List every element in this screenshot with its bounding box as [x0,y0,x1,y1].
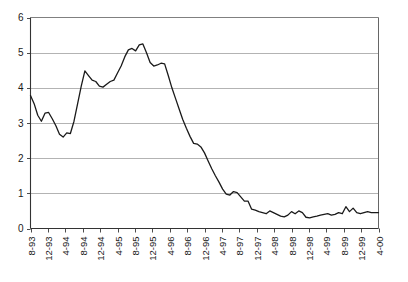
y-tick-label-2: 2 [18,153,24,164]
x-tick-label-20: 4-00 [374,237,385,256]
x-tick-label-18: 8-99 [339,237,350,256]
y-tick-label-3: 3 [18,118,24,129]
x-tick-label-12: 8-97 [234,237,245,256]
x-tick-label-7: 12-95 [147,237,158,261]
chart-canvas: 0123456 8-9312-934-948-9412-944-958-9512… [0,0,408,282]
y-tick-label-4: 4 [18,82,24,93]
x-tick-label-8: 4-96 [165,237,176,256]
x-tick-label-13: 12-97 [252,237,263,261]
y-tick-label-6: 6 [18,12,24,23]
line-chart: 0123456 8-9312-934-948-9412-944-958-9512… [0,0,408,282]
x-tick-label-17: 4-99 [321,237,332,256]
x-tick-label-19: 12-99 [356,237,367,261]
x-tick-label-4: 12-94 [95,237,106,261]
x-tick-label-5: 4-95 [113,237,124,256]
x-tick-label-10: 12-96 [200,237,211,261]
x-tick-label-14: 4-98 [269,237,280,256]
x-tick-label-3: 8-94 [78,237,89,256]
x-tick-label-15: 8-98 [287,237,298,256]
x-tick-label-16: 12-98 [304,237,315,261]
y-tick-label-5: 5 [18,47,24,58]
x-tick-label-11: 4-97 [217,237,228,256]
x-tick-label-1: 12-93 [43,237,54,261]
x-tick-label-2: 4-94 [60,237,71,256]
x-tick-label-9: 8-96 [182,237,193,256]
y-tick-label-1: 1 [18,188,24,199]
y-tick-label-0: 0 [18,223,24,234]
x-tick-label-6: 8-95 [130,237,141,256]
x-tick-label-0: 8-93 [26,237,37,256]
